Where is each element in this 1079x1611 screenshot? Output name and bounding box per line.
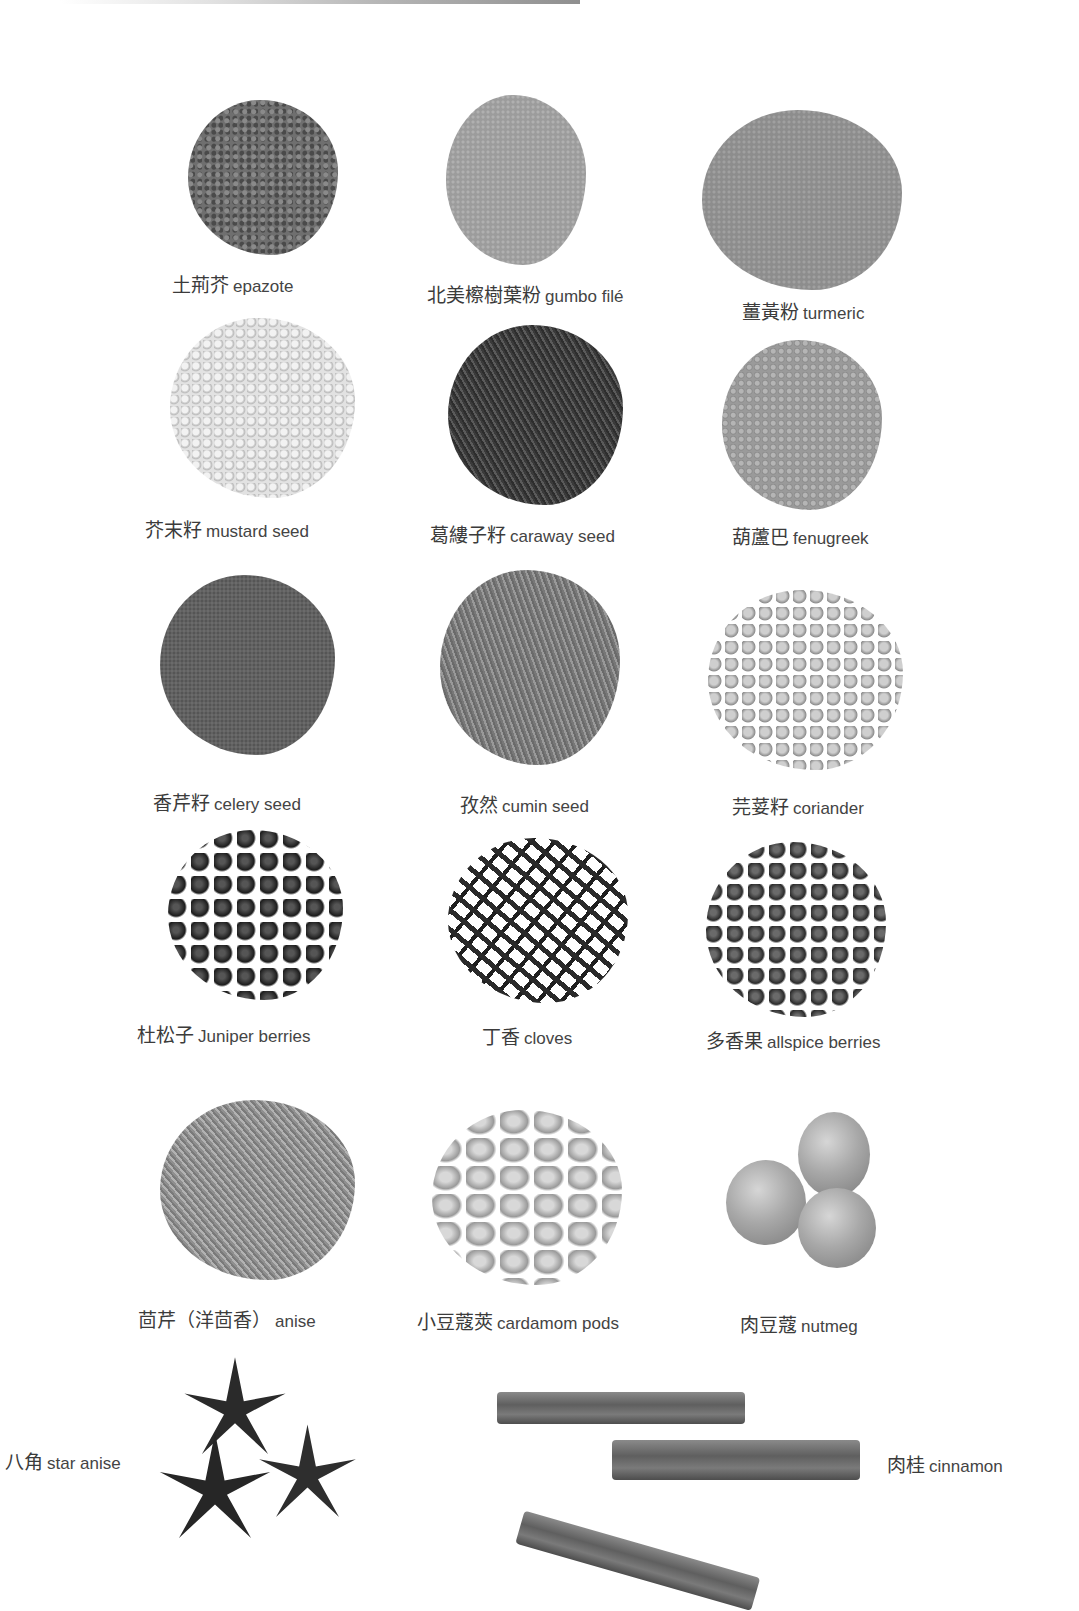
celery-seed-image xyxy=(160,575,335,755)
spice-name-en: cardamom pods xyxy=(497,1314,619,1333)
spice-name-zh: 葛縷子籽 xyxy=(430,524,506,546)
cinnamon-stick xyxy=(515,1511,760,1611)
cinnamon-stick xyxy=(497,1392,745,1424)
gumbo-file-image xyxy=(446,95,586,265)
cloves-image xyxy=(448,838,628,1003)
spice-label-turmeric: 薑黃粉turmeric xyxy=(742,297,864,324)
spice-name-en: star anise xyxy=(47,1454,121,1473)
spice-label-allspice-berries: 多香果allspice berries xyxy=(706,1026,880,1053)
mustard-seed-image xyxy=(170,318,355,498)
spice-name-zh: 小豆蔻莢 xyxy=(417,1311,493,1333)
spice-name-en: nutmeg xyxy=(801,1317,858,1336)
cumin-seed-image xyxy=(440,570,620,765)
spice-label-juniper-berries: 杜松子Juniper berries xyxy=(137,1020,310,1047)
spice-label-epazote: 土荊芥epazote xyxy=(172,270,294,297)
cropped-caption-line xyxy=(60,0,580,4)
spice-name-zh: 北美檫樹葉粉 xyxy=(427,284,541,306)
spice-name-en: allspice berries xyxy=(767,1033,880,1052)
spice-name-en: celery seed xyxy=(214,795,301,814)
spice-name-zh: 土荊芥 xyxy=(172,274,229,296)
spice-name-zh: 茴芹（洋茴香） xyxy=(138,1309,271,1331)
spice-name-en: epazote xyxy=(233,277,294,296)
anise-image xyxy=(160,1100,355,1280)
spice-name-zh: 多香果 xyxy=(706,1030,763,1052)
spice-label-caraway-seed: 葛縷子籽caraway seed xyxy=(430,520,615,547)
spice-name-en: cloves xyxy=(524,1029,572,1048)
spice-name-en: coriander xyxy=(793,799,864,818)
spice-label-nutmeg: 肉豆蔻nutmeg xyxy=(740,1310,858,1337)
spice-label-coriander: 芫荽籽coriander xyxy=(732,792,864,819)
spice-name-zh: 八角 xyxy=(5,1451,43,1473)
juniper-berries-image xyxy=(168,830,343,1000)
nutmeg-piece xyxy=(798,1188,876,1268)
spice-name-en: turmeric xyxy=(803,304,864,323)
spice-label-fenugreek: 葫蘆巴fenugreek xyxy=(732,522,869,549)
spice-name-en: fenugreek xyxy=(793,529,869,548)
allspice-berries-image xyxy=(706,842,886,1017)
cardamom-pods-image xyxy=(432,1110,622,1285)
spice-label-cinnamon: 肉桂cinnamon xyxy=(887,1450,1003,1477)
turmeric-image xyxy=(702,110,902,290)
spice-name-zh: 孜然 xyxy=(460,794,498,816)
caraway-seed-image xyxy=(448,325,623,505)
nutmeg-piece xyxy=(726,1160,806,1245)
spice-name-zh: 丁香 xyxy=(482,1026,520,1048)
spice-name-en: gumbo filé xyxy=(545,287,623,306)
spice-name-zh: 薑黃粉 xyxy=(742,301,799,323)
spice-name-zh: 芫荽籽 xyxy=(732,796,789,818)
cinnamon-stick xyxy=(612,1440,860,1480)
spice-label-cloves: 丁香cloves xyxy=(482,1022,572,1049)
spice-label-cardamom-pods: 小豆蔻莢cardamom pods xyxy=(417,1307,619,1334)
spice-label-celery-seed: 香芹籽celery seed xyxy=(153,788,301,815)
spice-label-cumin-seed: 孜然cumin seed xyxy=(460,790,589,817)
fenugreek-image xyxy=(722,340,882,510)
spice-label-mustard-seed: 芥末籽mustard seed xyxy=(145,515,309,542)
spice-name-zh: 葫蘆巴 xyxy=(732,526,789,548)
spice-name-zh: 肉豆蔻 xyxy=(740,1314,797,1336)
spice-name-en: cumin seed xyxy=(502,797,589,816)
spice-name-en: cinnamon xyxy=(929,1457,1003,1476)
spice-label-star-anise: 八角star anise xyxy=(5,1447,121,1474)
coriander-image xyxy=(708,590,903,770)
spice-label-anise: 茴芹（洋茴香）anise xyxy=(138,1305,316,1332)
spice-name-zh: 芥末籽 xyxy=(145,519,202,541)
spice-name-zh: 肉桂 xyxy=(887,1454,925,1476)
star-anise-icon xyxy=(255,1415,360,1535)
spice-name-zh: 香芹籽 xyxy=(153,792,210,814)
spice-name-zh: 杜松子 xyxy=(137,1024,194,1046)
nutmeg-piece xyxy=(798,1112,870,1197)
spice-label-gumbo-file: 北美檫樹葉粉gumbo filé xyxy=(427,280,623,307)
epazote-image xyxy=(188,100,338,255)
spice-name-en: anise xyxy=(275,1312,316,1331)
spice-name-en: caraway seed xyxy=(510,527,615,546)
spice-name-en: mustard seed xyxy=(206,522,309,541)
spice-name-en: Juniper berries xyxy=(198,1027,310,1046)
